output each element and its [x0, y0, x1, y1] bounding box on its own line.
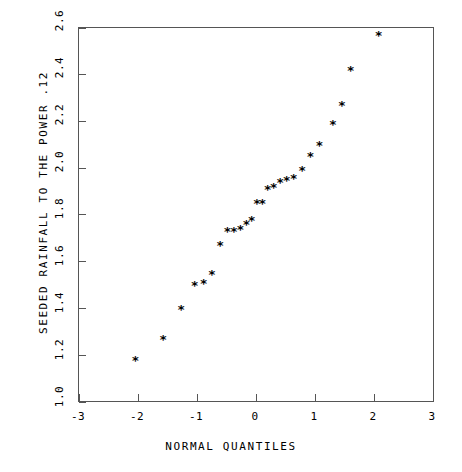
data-point-marker: *	[216, 240, 225, 251]
data-point-marker: *	[258, 198, 267, 209]
x-axis-tick	[433, 394, 434, 401]
x-tick-label: 0	[243, 410, 267, 423]
qq-plot-figure: SEEDED RAINFALL TO THE POWER .12 1.0 1.2…	[0, 0, 462, 472]
y-tick-label: 2.4	[53, 53, 66, 83]
y-tick-label: 1.2	[53, 335, 66, 365]
y-tick-label: 1.6	[53, 241, 66, 271]
x-tick-label: -1	[184, 410, 208, 423]
y-tick-label: 2.2	[53, 100, 66, 130]
data-point-marker: *	[247, 215, 256, 226]
data-point-marker: *	[337, 100, 346, 111]
y-axis-tick	[79, 402, 86, 403]
data-point-marker: *	[199, 278, 208, 289]
y-tick-label: 2.0	[53, 147, 66, 177]
x-tick-label: -3	[66, 410, 90, 423]
data-point-marker: *	[159, 334, 168, 345]
plot-area: **************************	[78, 27, 434, 402]
data-point-marker: *	[346, 65, 355, 76]
data-point-marker: *	[190, 280, 199, 291]
y-tick-label: 1.8	[53, 194, 66, 224]
data-points-layer: **************************	[79, 28, 433, 401]
data-point-marker: *	[177, 304, 186, 315]
data-point-marker: *	[207, 269, 216, 280]
y-tick-label: 1.4	[53, 288, 66, 318]
data-point-marker: *	[306, 151, 315, 162]
data-point-marker: *	[298, 165, 307, 176]
y-tick-label: 2.6	[53, 6, 66, 36]
x-tick-label: 1	[302, 410, 326, 423]
data-point-marker: *	[315, 140, 324, 151]
y-tick-label: 1.0	[53, 382, 66, 412]
x-tick-label: 2	[361, 410, 385, 423]
x-axis-title: NORMAL QUANTILES	[0, 440, 462, 453]
data-point-marker: *	[131, 355, 140, 366]
data-point-marker: *	[328, 119, 337, 130]
y-axis-title: SEEDED RAINFALL TO THE POWER .12	[37, 38, 50, 368]
x-tick-label: -2	[125, 410, 149, 423]
x-tick-label: 3	[420, 410, 444, 423]
data-point-marker: *	[374, 30, 383, 41]
